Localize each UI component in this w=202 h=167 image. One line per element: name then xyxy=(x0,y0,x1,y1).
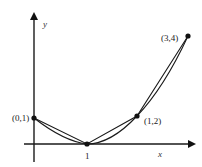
point-3-4 xyxy=(185,33,190,38)
y-axis-label: y xyxy=(42,19,47,29)
point-0-1 xyxy=(31,115,36,120)
point-label-1-2: (1,2) xyxy=(144,116,161,126)
coordinate-diagram: y x 1 (0,1) (1,2) (3,4) xyxy=(0,0,202,167)
point-label-0-1: (0,1) xyxy=(12,113,29,123)
chord-path xyxy=(34,36,188,144)
point-1-2 xyxy=(134,113,139,118)
point-1-0 xyxy=(84,141,89,146)
x-tick-label-1: 1 xyxy=(85,151,90,161)
smooth-curve xyxy=(34,36,188,144)
x-axis-label: x xyxy=(157,149,162,159)
point-label-3-4: (3,4) xyxy=(161,33,178,43)
